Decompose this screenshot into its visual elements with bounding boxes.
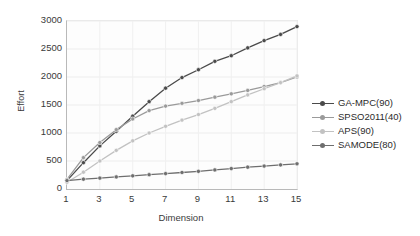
data-point-marker <box>278 163 282 167</box>
x-axis-tick-label: 1 <box>63 194 68 204</box>
data-point-marker <box>163 124 167 128</box>
data-point-marker <box>196 68 200 72</box>
y-axis-tick-label: 2000 <box>22 71 62 81</box>
series-layer <box>67 21 297 189</box>
data-point-marker <box>131 174 135 178</box>
data-point-marker <box>278 32 282 36</box>
data-point-marker <box>114 148 118 152</box>
plot-area <box>66 20 298 190</box>
chart-figure: 050010001500200025003000 Effort 13579111… <box>0 0 420 236</box>
data-point-marker <box>163 172 167 176</box>
data-point-marker <box>213 59 217 63</box>
data-point-marker <box>180 75 184 79</box>
x-axis-tick-label: 15 <box>291 194 302 204</box>
data-point-marker <box>131 117 135 121</box>
data-point-marker <box>262 87 266 91</box>
data-point-marker <box>213 106 217 110</box>
data-point-marker <box>147 100 151 104</box>
data-point-marker <box>278 81 282 85</box>
data-point-marker <box>295 25 299 29</box>
data-point-marker <box>180 101 184 105</box>
data-point-marker <box>163 86 167 90</box>
data-point-marker <box>196 112 200 116</box>
data-point-marker <box>114 128 118 132</box>
data-point-marker <box>147 109 151 113</box>
data-point-marker <box>180 118 184 122</box>
x-axis-title: Dimension <box>66 212 296 223</box>
y-axis-tick-label: 0 <box>22 183 62 193</box>
data-point-marker <box>98 140 102 144</box>
legend-item[interactable]: GA-MPC(90) <box>312 96 418 110</box>
data-point-marker <box>98 176 102 180</box>
legend-item-label: SPSO2011(40) <box>338 112 402 122</box>
y-axis-tick-label: 3000 <box>22 15 62 25</box>
data-point-marker <box>213 168 217 172</box>
data-point-marker <box>114 175 118 179</box>
data-point-marker <box>65 179 69 183</box>
x-axis-tick-labels: 13579111315 <box>66 194 296 208</box>
data-point-marker <box>213 95 217 99</box>
data-point-marker <box>163 104 167 108</box>
legend-swatch-icon <box>312 140 334 150</box>
data-point-marker <box>98 159 102 163</box>
x-axis-tick-label: 11 <box>225 194 235 204</box>
legend-swatch-icon <box>312 126 334 136</box>
data-point-marker <box>180 170 184 174</box>
data-point-marker <box>229 100 233 104</box>
data-point-marker <box>229 54 233 58</box>
data-point-marker <box>262 39 266 43</box>
legend-swatch-icon <box>312 112 334 122</box>
x-axis-tick-label: 5 <box>129 194 134 204</box>
legend-item[interactable]: SPSO2011(40) <box>312 110 418 124</box>
chart-legend: GA-MPC(90)SPSO2011(40)APS(90)SAMODE(80) <box>312 96 418 152</box>
y-axis-tick-label: 2500 <box>22 43 62 53</box>
data-point-marker <box>131 139 135 143</box>
y-axis-tick-label: 1500 <box>22 99 62 109</box>
data-point-marker <box>246 165 250 169</box>
data-point-marker <box>295 162 299 166</box>
x-axis-tick-label: 9 <box>195 194 200 204</box>
legend-item-label: GA-MPC(90) <box>338 98 393 108</box>
data-point-marker <box>262 164 266 168</box>
data-point-marker <box>229 92 233 96</box>
y-axis-tick-label: 1000 <box>22 127 62 137</box>
data-point-marker <box>196 98 200 102</box>
x-axis-tick-label: 3 <box>96 194 101 204</box>
data-point-marker <box>81 161 85 165</box>
data-point-marker <box>196 169 200 173</box>
data-point-marker <box>246 88 250 92</box>
data-point-marker <box>246 93 250 97</box>
legend-item-label: SAMODE(80) <box>338 140 396 150</box>
x-axis-tick-label: 13 <box>258 194 269 204</box>
data-point-marker <box>147 173 151 177</box>
x-axis-tick-label: 7 <box>162 194 167 204</box>
data-point-marker <box>229 166 233 170</box>
data-point-marker <box>81 156 85 160</box>
data-point-marker <box>295 74 299 78</box>
y-axis-title: Effort <box>16 71 26 131</box>
legend-swatch-icon <box>312 98 334 108</box>
legend-item[interactable]: SAMODE(80) <box>312 138 418 152</box>
data-point-marker <box>246 46 250 50</box>
data-point-marker <box>81 177 85 181</box>
data-point-marker <box>81 170 85 174</box>
series-line <box>67 77 297 179</box>
data-point-marker <box>147 131 151 135</box>
y-axis-tick-label: 500 <box>22 155 62 165</box>
legend-item-label: APS(90) <box>338 126 374 136</box>
legend-item[interactable]: APS(90) <box>312 124 418 138</box>
